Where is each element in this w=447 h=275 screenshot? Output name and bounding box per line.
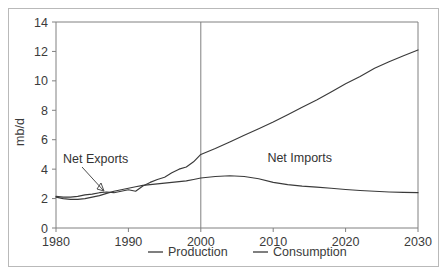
y-tick-label: 6 <box>41 133 48 147</box>
y-tick-label: 10 <box>34 74 48 88</box>
series-line-production <box>56 176 418 200</box>
y-tick-label: 8 <box>41 104 48 118</box>
y-axis-tick-labels: 02468101214 <box>34 16 48 236</box>
x-axis-ticks <box>56 228 418 232</box>
series-line-consumption <box>56 50 418 197</box>
net-exports-leader-line <box>82 167 103 190</box>
y-tick-label: 0 <box>41 222 48 236</box>
annotation-net-exports: Net Exports <box>63 152 128 166</box>
legend-label-production: Production <box>168 245 228 259</box>
y-axis-ticks <box>52 22 56 228</box>
y-tick-label: 14 <box>34 16 48 30</box>
x-tick-label: 2030 <box>404 235 432 249</box>
x-tick-label: 1990 <box>114 235 142 249</box>
line-chart: 02468101214 198019902000201020202030 mb/… <box>0 0 447 275</box>
y-tick-label: 4 <box>41 163 48 177</box>
chart-legend: Production Consumption <box>148 245 347 259</box>
x-axis-tick-labels: 198019902000201020202030 <box>42 235 432 249</box>
x-tick-label: 1980 <box>42 235 70 249</box>
figure-container: 02468101214 198019902000201020202030 mb/… <box>0 0 447 275</box>
y-tick-label: 12 <box>34 45 48 59</box>
legend-label-consumption: Consumption <box>273 245 347 259</box>
y-axis-title: mb/d <box>13 118 27 146</box>
y-tick-label: 2 <box>41 192 48 206</box>
annotation-net-imports: Net Imports <box>267 151 332 165</box>
